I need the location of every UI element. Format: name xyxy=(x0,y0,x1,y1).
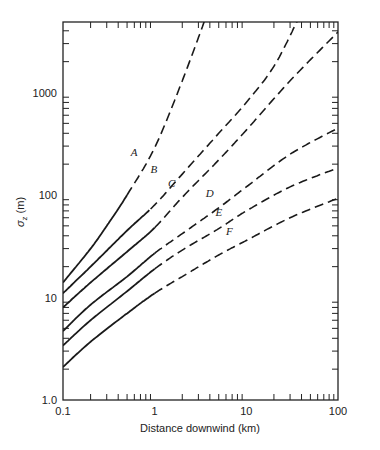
x-tick-label: 100 xyxy=(329,405,347,417)
curve-F-dashed xyxy=(155,198,338,293)
tick-labels: 0.11101001.0101001000 xyxy=(33,87,348,418)
y-tick-label: 1000 xyxy=(33,87,57,99)
y-tick-label: 10 xyxy=(45,292,57,304)
curve-B-solid xyxy=(63,210,149,293)
y-tick-label: 100 xyxy=(39,189,57,201)
curve-label-E: E xyxy=(214,206,222,218)
x-tick-label: 1 xyxy=(152,405,158,417)
curve-E-dashed xyxy=(155,168,338,269)
curve-label-D: D xyxy=(205,187,214,199)
curve-C-dashed xyxy=(155,32,338,228)
curve-label-B: B xyxy=(150,163,157,175)
y-axis-label: σz(m) xyxy=(14,197,29,227)
curves xyxy=(63,21,338,367)
curve-label-A: A xyxy=(130,146,138,158)
x-tick-label: 0.1 xyxy=(55,405,70,417)
curve-F-solid xyxy=(63,293,155,367)
curve-labels: ABCDEF xyxy=(130,146,233,237)
chart: ABCDEF 0.11101001.0101001000 Distance do… xyxy=(0,0,380,450)
axis-ticks xyxy=(63,22,338,400)
svg-text:σz(m): σz(m) xyxy=(14,197,29,227)
curve-label-F: F xyxy=(225,225,233,237)
x-axis-label: Distance downwind (km) xyxy=(140,422,260,434)
curve-label-C: C xyxy=(168,177,176,189)
curve-A-dashed xyxy=(127,21,204,195)
curve-D-dashed xyxy=(155,128,338,253)
plot-frame xyxy=(63,22,338,400)
y-axis-label-sub: z xyxy=(20,216,29,220)
y-axis-label-unit: (m) xyxy=(14,197,26,214)
y-tick-label: 1.0 xyxy=(42,394,57,406)
curve-C-solid xyxy=(63,228,155,308)
x-tick-label: 10 xyxy=(240,405,252,417)
